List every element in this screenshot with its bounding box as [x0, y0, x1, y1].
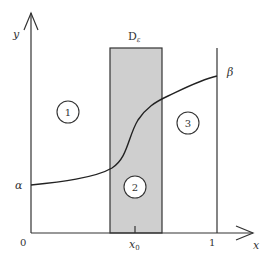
beta-label: β — [226, 66, 233, 79]
x0-label: x0 — [129, 238, 140, 252]
d-epsilon-main: D — [128, 30, 137, 43]
region-d-epsilon-label: Dε — [128, 30, 141, 44]
y-axis-label: y — [12, 28, 20, 41]
d-epsilon-subscript: ε — [137, 36, 141, 44]
origin-label: 0 — [20, 237, 26, 248]
region-2-marker: 2 — [124, 176, 146, 198]
region-1-label: 1 — [65, 107, 71, 118]
region-1-marker: 1 — [57, 101, 79, 123]
x-end-label: 1 — [209, 237, 215, 248]
alpha-label: α — [15, 179, 23, 192]
region-2-label: 2 — [132, 182, 138, 193]
region-3-label: 3 — [185, 118, 191, 129]
diagram-canvas: 1 2 3 y x 0 1 x0 Dε α β — [0, 0, 270, 262]
x-axis-label: x — [253, 239, 260, 252]
region-3-marker: 3 — [177, 112, 199, 134]
shaded-region-d-epsilon — [110, 48, 162, 233]
x0-label-subscript: 0 — [135, 244, 139, 252]
